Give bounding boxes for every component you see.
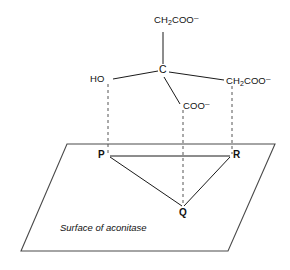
- hydroxyl-label: HO: [90, 74, 104, 84]
- right-arm-charge: –: [266, 74, 271, 83]
- top-arm-rest: COO: [172, 14, 194, 25]
- top-arm-label: CH2COO–: [154, 14, 198, 26]
- enzyme-surface-plane: [21, 144, 275, 251]
- bond-c-to-hydroxyl: [113, 71, 158, 79]
- right-arm-formula: CH: [226, 75, 240, 86]
- bond-c-to-bottom-arm: [164, 77, 180, 104]
- binding-site-r-label: R: [233, 150, 240, 160]
- bottom-arm-charge: –: [205, 99, 210, 108]
- bond-c-to-right-arm: [169, 72, 224, 80]
- right-arm-label: CH2COO–: [226, 75, 270, 87]
- top-arm-charge: –: [194, 13, 199, 22]
- aconitase-binding-diagram: CH2COO– C HO CH2COO– COO– P R Q Surface …: [0, 0, 290, 270]
- triangle-edge-rq: [184, 157, 230, 206]
- right-arm-rest: COO: [244, 75, 266, 86]
- bottom-arm-rest: COO: [183, 100, 205, 111]
- binding-site-q-label: Q: [179, 208, 187, 218]
- triangle-edge-pq: [110, 157, 182, 206]
- bottom-arm-label: COO–: [183, 100, 210, 111]
- surface-caption: Surface of aconitase: [60, 223, 147, 233]
- binding-site-p-label: P: [98, 150, 105, 160]
- central-carbon-label: C: [159, 64, 167, 75]
- top-arm-formula: CH: [154, 14, 168, 25]
